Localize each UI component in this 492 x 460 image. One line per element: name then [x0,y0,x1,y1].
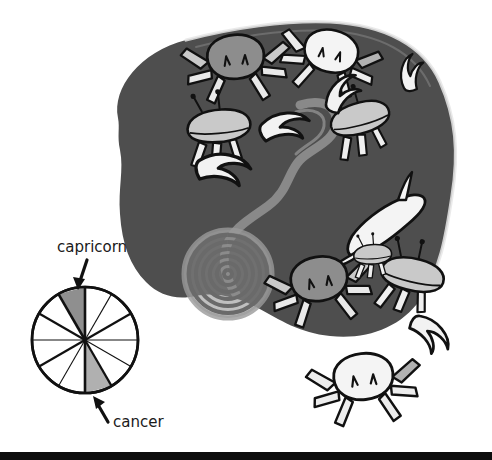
illustration-canvas: capricorn cancer [0,0,492,460]
crab-bottom-center [304,348,425,430]
crab-claw-bottom-right [406,308,451,360]
cancer-label: cancer [113,413,164,431]
spiral-coil [184,230,272,318]
zodiac-wheel [32,287,138,393]
zodiac-crabs-figure: capricorn cancer [0,0,492,460]
capricorn-arrow-icon [73,260,87,290]
capricorn-label: capricorn [57,238,127,256]
annotation-cancer: cancer [93,396,164,431]
bottom-rule [0,452,492,460]
cancer-arrow-icon [93,396,108,422]
annotation-capricorn: capricorn [57,238,127,290]
